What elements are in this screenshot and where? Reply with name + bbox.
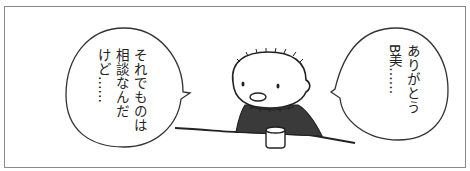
right-bubble-line-2: B美……	[387, 44, 403, 94]
right-eye	[277, 84, 280, 89]
left-bubble-text: それでものは 相談なんだ けど……	[95, 48, 149, 132]
mouth	[250, 93, 266, 101]
cup	[266, 127, 285, 148]
left-eye	[242, 82, 245, 87]
right-bubble-line-1: ありがとう	[405, 44, 421, 114]
left-bubble-line-2: 相談なんだ	[114, 48, 130, 118]
left-bubble-line-3: けど……	[96, 48, 112, 103]
left-bubble-line-1: それでものは	[132, 48, 148, 132]
right-bubble-text: ありがとう B美……	[386, 44, 422, 114]
manga-panel: それでものは 相談なんだ けど…… ありがとう B美……	[0, 0, 470, 171]
